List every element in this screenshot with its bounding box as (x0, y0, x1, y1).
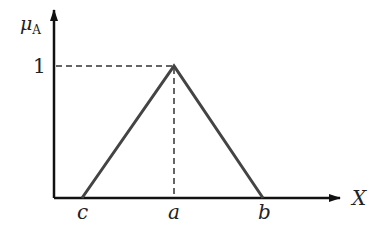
y-axis-label: μA (20, 12, 41, 37)
point-c-label: c (77, 200, 88, 224)
x-axis-label: X (350, 186, 367, 210)
point-a-label: a (168, 200, 180, 224)
point-b-label: b (258, 200, 271, 224)
membership-function-diagram: μA 1 X c a b (0, 0, 388, 236)
triangle-membership-curve (82, 66, 263, 198)
y-tick-label-1: 1 (33, 54, 46, 78)
